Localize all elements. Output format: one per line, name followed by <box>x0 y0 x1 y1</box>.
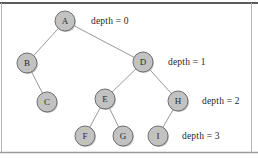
tree-edge-e-f <box>89 107 100 128</box>
node-label-d: D <box>140 57 147 67</box>
node-label-f: F <box>82 131 87 141</box>
tree-node-b[interactable]: B <box>17 53 38 74</box>
node-label-h: H <box>175 96 182 106</box>
tree-edge-b-c <box>31 71 43 94</box>
tree-edge-layer <box>31 25 173 128</box>
tree-node-d[interactable]: D <box>133 52 154 73</box>
tree-edge-e-g <box>109 107 119 128</box>
tree-node-g[interactable]: G <box>113 126 134 147</box>
tree-edge-h-i <box>162 109 173 128</box>
tree-edge-a-b <box>33 28 59 57</box>
node-label-i: I <box>157 131 160 141</box>
tree-edge-d-h <box>149 69 172 95</box>
depth-label-0: depth = 0 <box>91 16 129 26</box>
node-label-c: C <box>44 97 50 107</box>
node-label-e: E <box>102 94 108 104</box>
depth-label-3: depth = 3 <box>182 131 220 141</box>
tree-diagram-figure: ABDCEHFGI depth = 0depth = 1depth = 2dep… <box>0 0 258 158</box>
tree-edge-d-e <box>111 68 136 92</box>
node-label-b: B <box>24 58 30 68</box>
tree-node-h[interactable]: H <box>168 91 189 112</box>
tree-node-e[interactable]: E <box>95 89 116 110</box>
tree-node-a[interactable]: A <box>55 11 76 32</box>
depth-label-1: depth = 1 <box>168 57 206 67</box>
binary-tree-graphic: ABDCEHFGI depth = 0depth = 1depth = 2dep… <box>0 0 258 158</box>
tree-node-c[interactable]: C <box>37 92 58 113</box>
tree-node-f[interactable]: F <box>75 126 96 147</box>
node-label-a: A <box>62 16 69 26</box>
tree-edge-a-d <box>73 25 135 58</box>
depth-label-2: depth = 2 <box>202 96 240 106</box>
node-label-g: G <box>120 131 127 141</box>
tree-node-i[interactable]: I <box>148 126 169 147</box>
